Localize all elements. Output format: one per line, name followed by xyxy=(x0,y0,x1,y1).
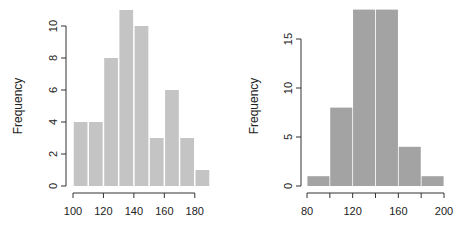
y-tick-label: 2 xyxy=(47,151,59,157)
histogram-bar-3 xyxy=(353,10,375,186)
histogram-bar-4 xyxy=(119,10,133,186)
y-tick-label: 0 xyxy=(282,183,294,189)
y-tick-label: 0 xyxy=(47,183,59,189)
x-tick-label: 80 xyxy=(301,205,313,217)
histogram-figure: Frequency 0246810100120140160180 Frequen… xyxy=(0,0,467,235)
x-tick-label: 120 xyxy=(343,205,361,217)
y-tick-label: 8 xyxy=(47,55,59,61)
histogram-bar-2 xyxy=(89,122,103,186)
y-tick-label: 6 xyxy=(47,87,59,93)
x-tick-label: 180 xyxy=(186,205,204,217)
histogram-bar-2 xyxy=(330,108,352,186)
histogram-left: Frequency 0246810100120140160180 xyxy=(11,10,209,217)
histogram-bar-6 xyxy=(422,176,444,186)
x-tick-label: 120 xyxy=(94,205,112,217)
histogram-bar-3 xyxy=(104,58,118,186)
y-tick-label: 5 xyxy=(282,134,294,140)
x-tick-label: 200 xyxy=(435,205,453,217)
x-tick-label: 140 xyxy=(125,205,143,217)
y-tick-label: 4 xyxy=(47,119,59,125)
y-axis-title-right: Frequency xyxy=(247,78,261,135)
y-tick-label: 15 xyxy=(282,33,294,45)
x-tick-label: 160 xyxy=(389,205,407,217)
histogram-bar-8 xyxy=(180,138,194,186)
histogram-bar-7 xyxy=(165,90,179,186)
y-tick-label: 10 xyxy=(282,82,294,94)
histogram-bar-9 xyxy=(196,170,210,186)
y-axis-title-left: Frequency xyxy=(11,78,25,135)
histogram-right: Frequency 05101580120160200 xyxy=(247,10,453,217)
histogram-bar-5 xyxy=(135,26,149,186)
y-tick-label: 10 xyxy=(47,20,59,32)
histogram-bar-4 xyxy=(376,10,398,186)
x-tick-label: 160 xyxy=(155,205,173,217)
histogram-bar-6 xyxy=(150,138,164,186)
x-tick-label: 100 xyxy=(64,205,82,217)
histogram-bar-1 xyxy=(74,122,88,186)
histogram-bar-1 xyxy=(307,176,329,186)
histogram-bar-5 xyxy=(399,147,421,186)
